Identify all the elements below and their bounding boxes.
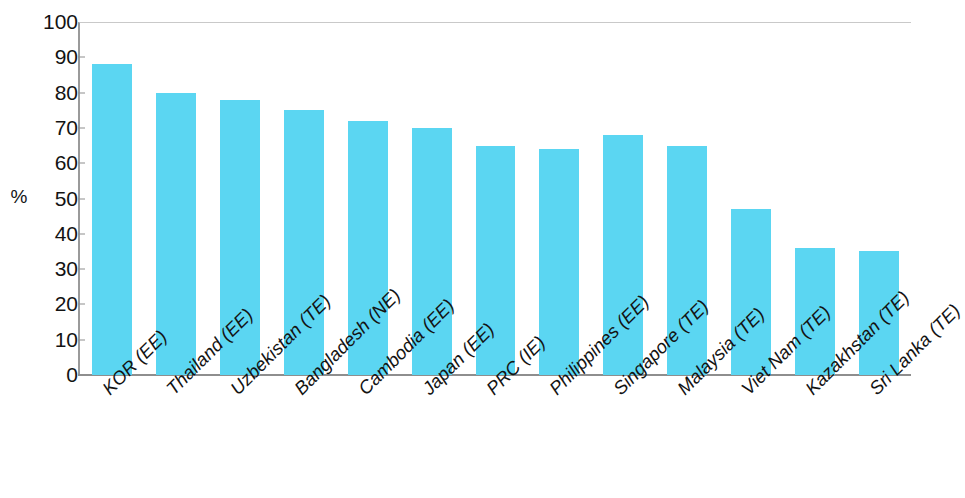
y-axis-unit-label: % [4, 186, 34, 208]
y-tick-label: 70 [55, 116, 78, 140]
x-axis-labels: KOR (EE)Thailand (EE)Uzbekistan (TE)Bang… [80, 378, 911, 498]
bar [92, 64, 132, 375]
y-tick-label: 10 [55, 328, 78, 352]
y-tick-label: 0 [66, 363, 78, 387]
bars-group [80, 22, 911, 375]
y-tick-label: 30 [55, 257, 78, 281]
y-tick-label: 40 [55, 222, 78, 246]
bar [539, 149, 579, 375]
y-tick-label: 20 [55, 292, 78, 316]
y-tick-label: 80 [55, 81, 78, 105]
y-tick-label: 50 [55, 187, 78, 211]
y-tick-label: 100 [43, 10, 78, 34]
y-tick-label: 60 [55, 151, 78, 175]
y-tick-label: 90 [55, 45, 78, 69]
